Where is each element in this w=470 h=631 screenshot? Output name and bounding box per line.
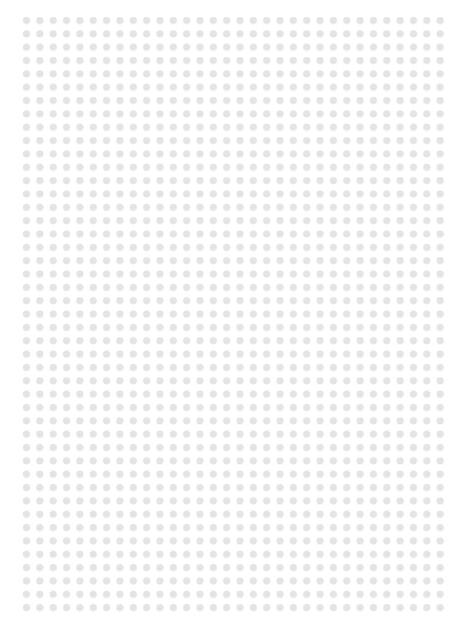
dot-grid-page <box>0 0 470 631</box>
clipped-header-text <box>30 0 330 5</box>
dot-grid-canvas[interactable] <box>23 17 445 612</box>
